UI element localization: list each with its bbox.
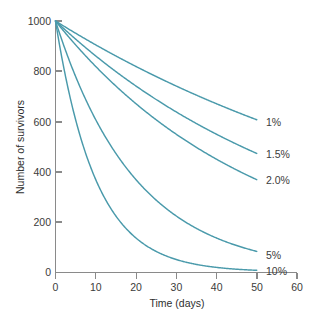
x-tick-label-20: 20 (130, 281, 142, 293)
chart-canvas: 1000 800 600 400 200 0 Number of survivo… (0, 0, 318, 315)
series-label-2p0-percent: 2.0% (266, 174, 290, 186)
y-axis-title: Number of survivors (14, 100, 26, 194)
x-tick-label-10: 10 (90, 281, 102, 293)
curve-1-percent (56, 21, 257, 120)
y-tick-label-200: 200 (33, 216, 51, 228)
y-tick-label-1000: 1000 (28, 15, 52, 27)
y-tick-label-400: 400 (33, 166, 51, 178)
x-tick-label-0: 0 (53, 281, 59, 293)
survival-decay-chart: 1000 800 600 400 200 0 Number of survivo… (0, 0, 318, 315)
series-label-1-percent: 1% (266, 116, 281, 128)
series-labels: 1% 1.5% 2.0% 5% 10% (266, 116, 290, 277)
y-tick-label-0: 0 (45, 266, 51, 278)
x-axis-title: Time (days) (149, 297, 204, 309)
x-tick-marks (56, 273, 298, 279)
x-axis-group: 0 10 20 30 40 50 60 Time (days) (53, 273, 303, 310)
series-label-10-percent: 10% (266, 265, 287, 277)
curve-1p5-percent (56, 21, 257, 153)
x-tick-label-60: 60 (291, 281, 303, 293)
x-tick-label-50: 50 (251, 281, 263, 293)
series-label-5-percent: 5% (266, 249, 281, 261)
curve-10-percent (56, 21, 257, 270)
series-label-1p5-percent: 1.5% (266, 148, 290, 160)
x-tick-label-40: 40 (211, 281, 223, 293)
y-axis-group: 1000 800 600 400 200 0 Number of survivo… (14, 15, 62, 278)
data-curves (56, 21, 257, 270)
y-tick-label-600: 600 (33, 116, 51, 128)
y-tick-label-800: 800 (33, 65, 51, 77)
x-tick-label-30: 30 (171, 281, 183, 293)
